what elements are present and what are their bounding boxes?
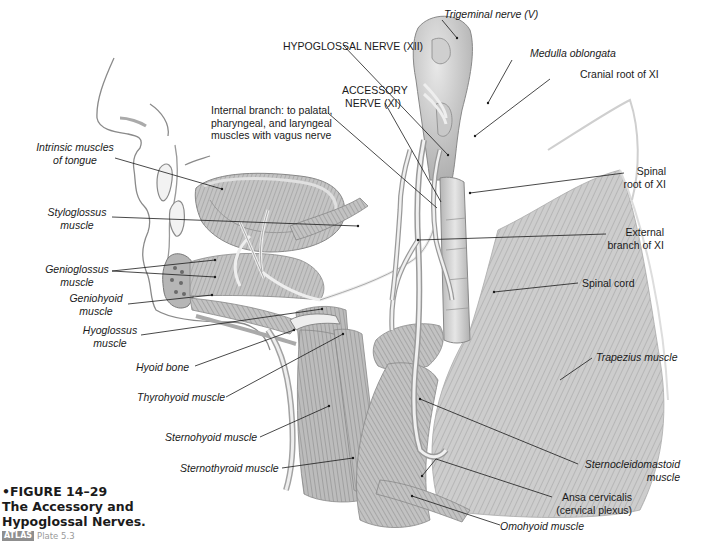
label-styloglossus-line2: muscle — [44, 219, 110, 232]
atlas-tag: ATLAS — [2, 531, 34, 541]
label-hyoglossus: Hyoglossus muscle — [82, 324, 138, 349]
figure-caption: •FIGURE 14–29 The Accessory and Hypoglos… — [2, 484, 146, 529]
bullet-icon: • — [2, 484, 10, 499]
label-intrinsic-muscles: Intrinsic muscles of tongue — [34, 141, 116, 166]
label-spinal-root-xi: Spinal root of XI — [600, 165, 666, 190]
label-intrinsic-line2: of tongue — [34, 154, 116, 167]
lips-teeth — [157, 164, 184, 236]
atlas-plate: Plate 5.3 — [37, 531, 74, 541]
figure-number: •FIGURE 14–29 — [2, 484, 146, 499]
label-external-branch-line2: branch of XI — [584, 239, 664, 252]
label-trigeminal-nerve: Trigeminal nerve (V) — [444, 8, 538, 21]
label-sternocleidomastoid-line1: Sternocleidomastoid — [568, 458, 680, 471]
figure-title-line2: Hypoglossal Nerves. — [2, 514, 146, 529]
label-sternothyroid: Sternothyroid muscle — [180, 462, 279, 475]
label-medulla-oblongata: Medulla oblongata — [530, 47, 616, 60]
label-ansa-line1: Ansa cervicalis — [552, 491, 632, 504]
label-external-branch-line1: External — [584, 226, 664, 239]
label-omohyoid: Omohyoid muscle — [500, 520, 584, 533]
label-genioglossus-line2: muscle — [42, 276, 112, 289]
label-hyoglossus-line1: Hyoglossus — [82, 324, 138, 337]
label-sternohyoid: Sternohyoid muscle — [165, 431, 257, 444]
label-thyrohyoid: Thyrohyoid muscle — [137, 391, 225, 404]
label-styloglossus-line1: Styloglossus — [44, 206, 110, 219]
label-intrinsic-line1: Intrinsic muscles — [34, 141, 116, 154]
label-spinal-root-line1: Spinal — [600, 165, 666, 178]
label-trapezius: Trapezius muscle — [596, 351, 678, 364]
label-hyoglossus-line2: muscle — [82, 337, 138, 350]
atlas-reference: ATLAS Plate 5.3 — [2, 531, 75, 541]
label-sternocleidomastoid-line2: muscle — [568, 471, 680, 484]
label-internal-branch-line1: Internal branch: to palatal, — [211, 104, 332, 117]
label-sternocleidomastoid: Sternocleidomastoid muscle — [568, 458, 680, 483]
label-spinal-root-line2: root of XI — [600, 178, 666, 191]
spinal-cord — [440, 177, 470, 343]
label-geniohyoid-line2: muscle — [66, 305, 126, 318]
label-accessory-line1: ACCESSORY — [342, 84, 404, 97]
figure-canvas: Trigeminal nerve (V) Medulla oblongata H… — [0, 0, 703, 559]
label-geniohyoid: Geniohyoid muscle — [66, 292, 126, 317]
label-ansa-cervicalis: Ansa cervicalis (cervical plexus) — [552, 491, 632, 516]
label-genioglossus: Genioglossus muscle — [42, 263, 112, 288]
label-genioglossus-line1: Genioglossus — [42, 263, 112, 276]
label-hyoid-bone: Hyoid bone — [136, 361, 189, 374]
figure-title-line1: The Accessory and — [2, 499, 146, 514]
label-internal-branch: Internal branch: to palatal, pharyngeal,… — [211, 104, 332, 142]
label-spinal-cord: Spinal cord — [582, 277, 635, 290]
label-accessory-nerve: ACCESSORY NERVE (XI) — [342, 84, 404, 109]
label-ansa-line2: (cervical plexus) — [552, 504, 632, 517]
label-internal-branch-line2: pharyngeal, and laryngeal — [211, 117, 332, 130]
label-styloglossus: Styloglossus muscle — [44, 206, 110, 231]
tongue — [195, 173, 344, 252]
label-internal-branch-line3: muscles with vagus nerve — [211, 129, 332, 142]
label-cranial-root-xi: Cranial root of XI — [580, 68, 659, 81]
label-geniohyoid-line1: Geniohyoid — [66, 292, 126, 305]
label-external-branch-xi: External branch of XI — [584, 226, 664, 251]
label-hypoglossal-nerve: HYPOGLOSSAL NERVE (XII) — [283, 40, 423, 53]
label-accessory-line2: NERVE (XI) — [342, 97, 404, 110]
